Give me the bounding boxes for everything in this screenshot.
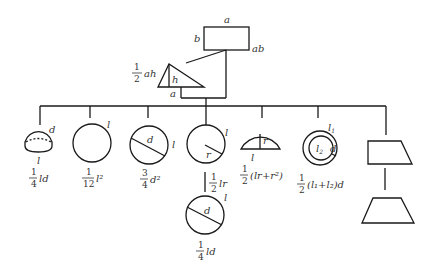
circle3-num: 3 (142, 168, 148, 178)
circle-radius-shape: r l 1 2 lr (187, 125, 228, 194)
circle3-formula: d² (150, 174, 160, 185)
rect-left-label: b (194, 33, 200, 44)
hemisphere-l-label: l (37, 155, 40, 166)
segment-r-label: r (263, 135, 269, 146)
triangle-coef-den: 2 (134, 74, 140, 84)
triangle-area-expr: ah (144, 68, 156, 79)
circle-diameter-shape: d l 3 4 d² (130, 126, 175, 190)
circle2-num: 1 (86, 167, 92, 177)
child-circle-den: 4 (198, 252, 204, 262)
circle4-den: 2 (211, 184, 217, 194)
child-circle-l-label: l (224, 192, 227, 203)
circle3-l-label: l (172, 139, 175, 150)
rect-top-label: a (224, 14, 230, 25)
hemisphere-d-label: d (49, 124, 55, 135)
child-circle-d-label: d (204, 205, 210, 216)
segment-den: 2 (242, 176, 248, 186)
hemisphere-num: 1 (31, 167, 37, 177)
segment-formula: (lr+r²) (250, 170, 283, 181)
circle2-l-label: l (107, 119, 110, 130)
annulus-d-label: d (330, 143, 336, 154)
hemisphere-shape: d l 1 4 ld (25, 124, 55, 189)
triangle-coef-num: 1 (134, 62, 140, 72)
child-circle-shape: d l 1 4 ld (186, 192, 227, 262)
hemisphere-formula: ld (39, 173, 49, 184)
circle4-l-label: l (225, 127, 228, 138)
circle2-formula: l² (96, 173, 103, 184)
circle4-formula: lr (219, 178, 228, 189)
rectangle-shape: a b ab (194, 14, 264, 54)
circle3-d-label: d (147, 134, 153, 145)
trapezoid-pair-shape (362, 141, 414, 223)
circle3-den: 4 (142, 180, 148, 190)
triangle-height-label: h (172, 74, 178, 85)
child-circle-formula: ld (206, 246, 216, 257)
annulus-shape: l1 l2 d 1 2 (l₁+l₂)d (297, 122, 344, 195)
annulus-l2-label: l2 (316, 143, 323, 155)
triangle-shape: h a 1 2 ah (132, 62, 204, 99)
triangle-base-label: a (170, 88, 176, 99)
circle-circumference-shape: l 1 12 l² (73, 119, 111, 189)
annulus-l1-label: l1 (328, 122, 335, 134)
annulus-formula: (l₁+l₂)d (307, 179, 344, 190)
geometry-area-diagram: a b ab h a 1 2 ah d l 1 (0, 0, 437, 278)
circle2-den: 12 (83, 179, 94, 189)
rect-connector (181, 50, 226, 98)
segment-num: 1 (242, 164, 248, 174)
circle-segment-shape: r l 1 2 (lr+r²) (240, 134, 283, 186)
annulus-den: 2 (299, 185, 305, 195)
hemisphere-den: 4 (31, 179, 37, 189)
annulus-num: 1 (299, 173, 305, 183)
circle4-r-label: r (206, 149, 212, 160)
rect-area-label: ab (252, 43, 264, 54)
child-circle-num: 1 (198, 240, 204, 250)
segment-l-label: l (251, 152, 254, 163)
circle4-num: 1 (211, 172, 217, 182)
